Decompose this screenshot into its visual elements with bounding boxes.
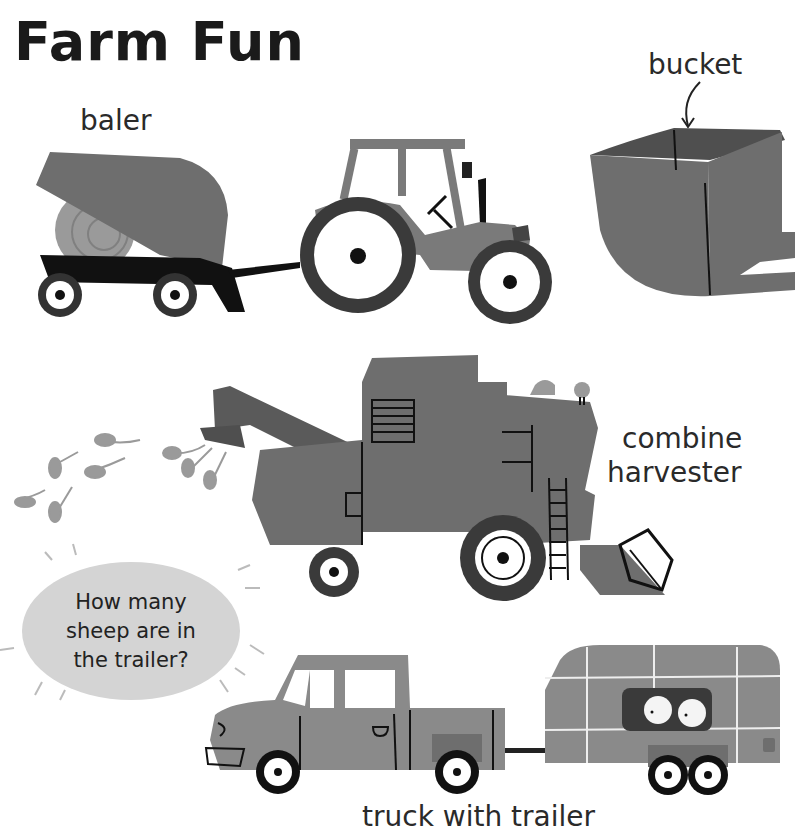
trailer-icon: [545, 645, 780, 795]
bucket-icon: [590, 128, 795, 296]
bucket-arrow-icon: [682, 82, 700, 127]
bubble-rays-icon: [0, 544, 264, 700]
tractor-icon: [300, 139, 552, 324]
combine-harvester-icon: [200, 355, 672, 601]
truck-icon: [206, 655, 550, 794]
illustration-canvas: [0, 0, 795, 836]
wheat-icon: [15, 434, 226, 522]
baler-icon: [36, 152, 300, 317]
